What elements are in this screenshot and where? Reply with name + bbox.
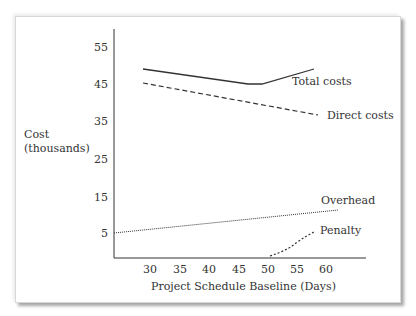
total-costs-line	[143, 69, 314, 84]
y-tick: 25	[94, 153, 108, 166]
y-tick: 35	[94, 115, 108, 128]
y-axis-label-line1: Cost	[24, 128, 50, 141]
y-tick: 15	[94, 191, 108, 204]
y-axis-label-line2: (thousands)	[24, 142, 90, 155]
y-tick: 45	[94, 78, 108, 91]
x-axis-label: Project Schedule Baseline (Days)	[151, 280, 336, 293]
penalty-label: Penalty	[320, 224, 362, 237]
overhead-line	[114, 210, 338, 233]
total-costs-label: Total costs	[292, 75, 352, 88]
x-tick: 60	[319, 263, 333, 276]
y-tick: 5	[101, 227, 108, 240]
penalty-line	[270, 232, 314, 256]
overhead-label: Overhead	[321, 194, 375, 207]
y-tick: 55	[94, 41, 108, 54]
x-tick: 45	[232, 263, 246, 276]
x-tick: 50	[261, 263, 275, 276]
x-tick: 30	[143, 263, 157, 276]
direct-costs-label: Direct costs	[327, 109, 394, 122]
x-tick: 40	[202, 263, 216, 276]
x-tick: 35	[173, 263, 187, 276]
line-chart: 55 45 35 25 15 5 Cost (thousands) 30 35 …	[0, 0, 416, 316]
x-tick: 55	[290, 263, 304, 276]
